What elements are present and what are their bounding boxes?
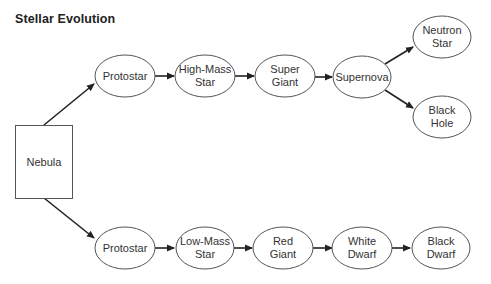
node-low-mass-star: Low-Mass Star	[176, 227, 234, 269]
node-label: Black	[429, 104, 456, 116]
node-white-dwarf: White Dwarf	[332, 227, 392, 269]
node-label: Giant	[270, 248, 296, 260]
node-red-giant: Red Giant	[253, 227, 313, 269]
node-label: Star	[432, 37, 453, 49]
node-label: Super	[270, 63, 300, 75]
stellar-evolution-diagram: Nebula Protostar High-Mass Star Super Gi…	[0, 0, 491, 284]
node-protostar-high: Protostar	[95, 55, 155, 97]
node-label: Star	[195, 248, 216, 260]
edge-supernova-to-black-hole	[385, 90, 413, 108]
edge-nebula-to-protostar-high	[44, 84, 94, 125]
node-label: Low-Mass	[180, 235, 231, 247]
node-supernova: Supernova	[333, 56, 391, 98]
edge-nebula-to-protostar-low	[44, 198, 94, 238]
node-label: High-Mass	[179, 63, 232, 75]
node-label: White	[348, 235, 376, 247]
node-black-dwarf: Black Dwarf	[412, 227, 470, 269]
node-label: Red	[273, 235, 293, 247]
node-high-mass-star: High-Mass Star	[175, 55, 235, 97]
node-label: Protostar	[103, 70, 148, 82]
node-super-giant: Super Giant	[255, 55, 315, 97]
node-label: Hole	[431, 117, 454, 129]
node-nebula: Nebula	[16, 126, 73, 199]
node-label: Star	[195, 76, 216, 88]
node-label: Dwarf	[427, 248, 457, 260]
node-label: Nebula	[27, 156, 63, 168]
node-label: Supernova	[335, 71, 389, 83]
node-neutron-star: Neutron Star	[413, 16, 471, 58]
node-label: Protostar	[103, 242, 148, 254]
node-label: Giant	[272, 76, 298, 88]
node-black-hole: Black Hole	[413, 96, 471, 138]
node-protostar-low: Protostar	[95, 227, 155, 269]
node-label: Neutron	[422, 24, 461, 36]
edge-supernova-to-neutron-star	[385, 47, 413, 64]
node-label: Black	[428, 235, 455, 247]
node-label: Dwarf	[348, 248, 378, 260]
